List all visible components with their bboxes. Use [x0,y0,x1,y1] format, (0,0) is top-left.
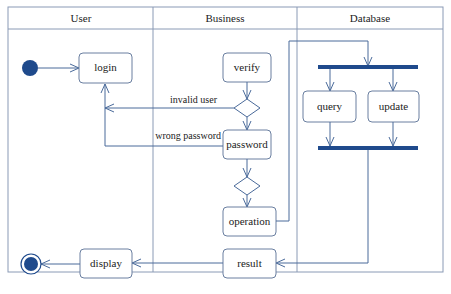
end-node-icon [21,254,41,274]
action-login-label: login [94,61,117,73]
activity-diagram: User Business Database login verify inva… [0,0,451,294]
action-operation-label: operation [229,215,271,227]
action-result: result [223,249,276,278]
fork-bar [318,65,418,69]
action-query: query [303,91,356,122]
action-login: login [79,53,132,83]
edge-label-invalid-user: invalid user [170,94,218,105]
action-update: update [368,91,419,122]
action-verify: verify [223,53,271,82]
action-update-label: update [379,100,408,112]
join-bar [318,146,418,150]
action-display-label: display [90,257,122,269]
action-result-label: result [237,257,261,269]
lane-header-database: Database [350,12,390,24]
action-operation: operation [223,207,276,236]
lane-header-business: Business [205,12,244,24]
edge-join-result [276,150,368,263]
action-display: display [80,249,132,278]
action-password-label: password [226,138,268,150]
decision-node-icon [234,99,260,117]
lane-header-user: User [71,12,92,24]
decision-node-icon [234,177,260,195]
action-query-label: query [317,100,343,112]
action-password: password [223,130,271,159]
start-node-icon [22,60,38,76]
edge-label-wrong-password: wrong password [155,130,221,141]
action-verify-label: verify [234,61,261,73]
